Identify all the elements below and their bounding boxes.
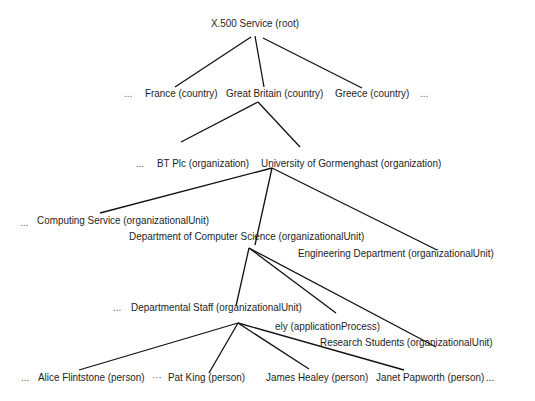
countries-right-ellipsis: ... [420,86,428,100]
countries-left-ellipsis: ... [124,86,132,100]
node-bt: BT Plc (organization) [157,156,249,170]
node-france: France (country) [145,86,218,100]
node-pat: Pat King (person) [168,370,245,384]
node-university: University of Gormenghast (organization) [261,156,441,170]
edge-university-computing-service [100,168,272,213]
node-james: James Healey (person) [266,370,368,384]
persons-mid-ellipsis: ··· [152,370,162,384]
node-janet: Janet Papworth (person) [376,370,484,384]
ou-ellipsis: ... [20,215,28,229]
x500-directory-tree: X.500 Service (root) ... France (country… [0,0,535,401]
node-computing-service: Computing Service (organizationalUnit) [37,213,209,227]
node-great-britain: Great Britain (country) [226,86,323,100]
staff-ellipsis: ... [113,300,121,314]
node-greece: Greece (country) [335,86,409,100]
edge-root-greece [263,38,362,88]
node-engineering: Engineering Department (organizationalUn… [298,246,494,260]
node-alice: Alice Flintstone (person) [38,370,145,384]
edge-root-great-britain [255,36,264,87]
node-root: X.500 Service (root) [211,16,299,30]
orgs-ellipsis: ... [136,156,144,170]
node-dept-cs: Department of Computer Science (organiza… [129,229,364,243]
node-departmental-staff: Departmental Staff (organizationalUnit) [131,300,302,314]
edge-root-france [175,37,251,87]
node-research-students: Research Students (organizationalUnit) [320,335,493,349]
edge-dept-cs-departmental-staff [236,248,249,306]
node-ely: ely (applicationProcess) [275,319,380,333]
edge-gb-bt [181,102,258,142]
persons-left-ellipsis: ... [21,370,29,384]
persons-right-ellipsis: ... [486,370,494,384]
edge-gb-university [258,102,300,147]
